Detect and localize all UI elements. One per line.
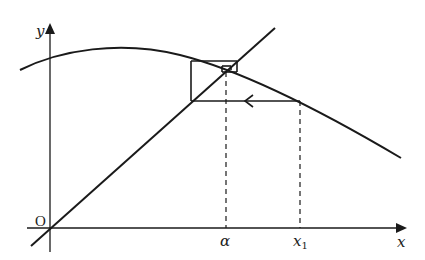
line-y-equals-x (31, 28, 275, 246)
cobweb-diagram: y x O α x1 (0, 0, 425, 260)
alpha-label: α (220, 232, 230, 250)
x-axis (27, 223, 407, 233)
y-axis-label: y (35, 22, 45, 40)
curve-g (20, 48, 401, 158)
x1-label: x1 (293, 232, 308, 251)
x-axis-label: x (397, 233, 406, 251)
x-axis-arrow-icon (396, 223, 407, 233)
origin-label: O (35, 213, 46, 229)
y-axis-arrow-icon (45, 23, 55, 34)
